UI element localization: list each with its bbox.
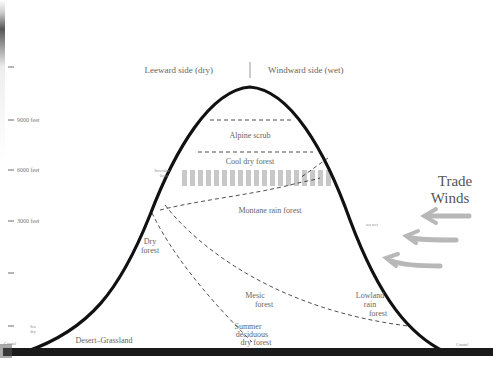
elevation-axis <box>8 67 14 326</box>
tick-label-9000: 9000 feet <box>17 117 40 123</box>
zone-lowland-1: Lowland <box>356 291 384 300</box>
zone-dry-forest-1: Dry <box>144 237 156 246</box>
zone-summer-deciduous-3: dry forest <box>241 338 273 347</box>
wind-arrow-icon <box>386 209 469 266</box>
vegetation-zone-diagram: 9000 feet 6000 feet 3000 feet Leeward si… <box>0 0 493 367</box>
zone-lowland-2: rain <box>364 300 376 309</box>
sea-wet-label: sea wet <box>366 222 379 227</box>
zone-alpine-scrub: Alpine scrub <box>229 131 270 140</box>
sea-dry-label-2: dry <box>30 329 35 334</box>
zone-montane-rain-forest: Montane rain forest <box>238 206 302 215</box>
trade-winds-label-1: Trade <box>438 173 473 189</box>
inversion-layer-label-2: layer <box>160 173 169 178</box>
photo-strip <box>0 0 5 160</box>
inversion-layer-band <box>182 170 331 186</box>
zone-lowland-3: forest <box>369 309 388 318</box>
leeward-label: Leeward side (dry) <box>145 65 213 75</box>
coastal-left-label: Coastal <box>4 341 17 346</box>
coastal-right-label: Coastal <box>456 342 469 347</box>
tick-label-3000: 3000 feet <box>17 218 40 224</box>
zone-dry-forest-2: forest <box>141 246 160 255</box>
ground-baseline <box>3 348 493 356</box>
trade-winds-label-2: Winds <box>431 190 470 206</box>
zone-cool-dry-forest: Cool dry forest <box>226 157 275 166</box>
zone-mesic-forest-2: forest <box>255 300 274 309</box>
windward-label: Windward side (wet) <box>268 65 344 75</box>
zone-desert-grassland: Desert–Grassland <box>76 336 133 345</box>
zone-mesic-forest-1: Mesic <box>245 291 265 300</box>
ground-shadow <box>0 344 12 358</box>
tick-label-6000: 6000 feet <box>17 167 40 173</box>
